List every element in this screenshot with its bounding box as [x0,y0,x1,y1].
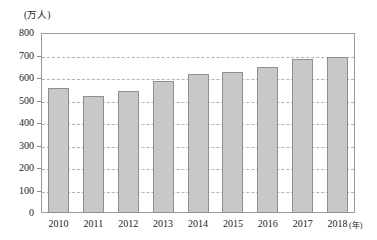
y-tick-label: 500 [19,96,34,106]
bars-layer [41,33,355,213]
x-tick-label: 2013 [153,218,173,229]
bar [222,72,243,213]
y-tick-label: 100 [19,186,34,196]
y-tick-label: 300 [19,141,34,151]
x-axis-unit-label: (年) [349,221,362,230]
x-tick-label: 2018 [328,218,348,229]
y-tick-label: 800 [19,28,34,38]
x-axis: 201020112012201320142015201620172018 [41,214,355,236]
y-tick-label: 0 [29,208,34,218]
bar [327,57,348,213]
x-tick-label: 2014 [188,218,208,229]
bar [83,96,104,213]
x-tick-label: 2015 [223,218,243,229]
x-tick-label: 2016 [258,218,278,229]
x-tick-label: 2010 [48,218,68,229]
y-axis: 0100200300400500600700800 [0,33,41,213]
x-tick-label: 2012 [118,218,138,229]
x-tick-label: 2011 [84,218,104,229]
bar [257,67,278,213]
y-tick-label: 200 [19,163,34,173]
bar [153,81,174,213]
bar [188,74,209,213]
bar [118,91,139,213]
y-axis-unit-label: (万人) [24,9,50,21]
y-tick-label: 400 [19,118,34,128]
y-tick-label: 600 [19,73,34,83]
bar-chart: (万人) 0100200300400500600700800 201020112… [0,0,377,240]
y-tick-label: 700 [19,51,34,61]
bar [292,59,313,213]
x-tick-label: 2017 [293,218,313,229]
bar [48,88,69,213]
